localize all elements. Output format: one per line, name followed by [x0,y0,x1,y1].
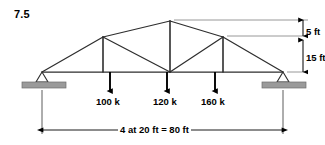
truss-members [42,21,283,72]
support-roller-right [262,72,306,88]
top-chord-segment-2 [103,21,170,37]
top-chord-segment-1 [42,37,103,72]
top-chord-segment-3 [170,21,223,37]
load-arrows [110,72,215,91]
truss-figure: 7.5 100 k 120 k 160 k 5 ft 15 ft 4 at 20… [0,0,325,145]
diagonal-member-left [103,37,170,72]
diagonal-member-right [170,37,223,72]
dimension-label-bottom-rise: 15 ft [306,53,325,63]
load-label-100k: 100 k [96,97,120,107]
support-pin-left [22,72,66,88]
problem-number: 7.5 [14,9,30,20]
load-label-120k: 120 k [153,97,177,107]
load-label-160k: 160 k [201,97,225,107]
dimension-label-top-rise: 5 ft [306,27,320,37]
top-chord-segment-4 [223,37,283,72]
dimension-label-span: 4 at 20 ft = 80 ft [118,125,191,135]
